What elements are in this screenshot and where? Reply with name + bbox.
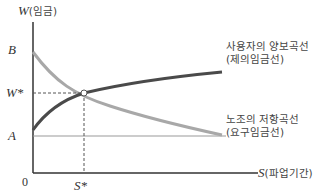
tick-s-star: S* [74, 179, 87, 192]
origin-label: 0 [22, 176, 28, 189]
x-axis-label: S(파업기간) [258, 166, 313, 180]
union-label-line1: 노조의 저항곡선 [226, 113, 299, 126]
employer-curve-label: 사용자의 양보곡선 (제의임금선) [226, 40, 309, 66]
y-axis-var: W [18, 3, 29, 18]
employer-label-line1: 사용자의 양보곡선 [226, 40, 309, 53]
y-axis-text: (임금) [29, 5, 57, 17]
union-curve-label: 노조의 저항곡선 (요구임금선) [226, 113, 299, 139]
union-resistance-curve [33, 52, 222, 135]
employer-label-line2: (제의임금선) [226, 53, 309, 66]
chart-canvas [0, 0, 321, 194]
tick-w-star: W* [6, 86, 23, 99]
y-axis-label: W(임금) [18, 4, 57, 18]
union-label-line2: (요구임금선) [226, 126, 299, 139]
tick-a: A [8, 129, 16, 142]
x-axis-text: (파업기간) [265, 167, 313, 179]
tick-b: B [8, 43, 16, 56]
equilibrium-point [81, 90, 87, 96]
